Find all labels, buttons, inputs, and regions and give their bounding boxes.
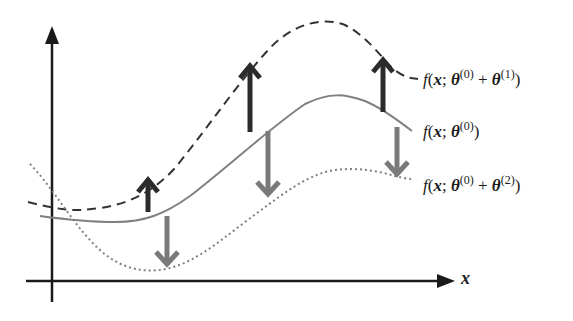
curve-theta0	[40, 95, 412, 222]
curve-theta0-plus-theta1	[28, 22, 418, 210]
label-theta: θ	[492, 176, 501, 195]
label-theta0-plus-theta2: f(x; θ(0) + θ(2))	[423, 176, 520, 196]
label-sep: ;	[442, 70, 447, 89]
label-arg: x	[433, 176, 442, 195]
label-sep: ;	[442, 176, 447, 195]
label-plus: +	[478, 70, 488, 89]
y-axis-arrowhead-icon	[45, 26, 59, 44]
x-axis-label: x	[461, 268, 470, 289]
label-theta: θ	[451, 122, 460, 141]
label-fn: f	[423, 122, 428, 141]
arrow-up-icon	[240, 66, 260, 132]
arrow-down-icon	[257, 131, 279, 194]
label-theta: θ	[451, 176, 460, 195]
arrow-up-icon	[138, 180, 158, 212]
label-sup: (0)	[460, 119, 474, 133]
label-arg: x	[433, 70, 442, 89]
label-plus: +	[478, 176, 488, 195]
label-sup: (0)	[460, 67, 474, 81]
label-theta0: f(x; θ(0))	[423, 122, 479, 142]
label-sep: ;	[442, 122, 447, 141]
label-sup: (2)	[501, 173, 515, 187]
y-axis	[45, 26, 59, 302]
label-arg: x	[433, 122, 442, 141]
arrow-up-icon	[373, 60, 393, 112]
arrow-down-icon	[386, 127, 408, 174]
label-theta0-plus-theta1: f(x; θ(0) + θ(1))	[423, 70, 520, 90]
arrow-down-icon	[156, 216, 178, 264]
label-fn: f	[423, 176, 428, 195]
x-axis	[26, 274, 455, 288]
function-perturbation-diagram	[0, 0, 573, 321]
label-theta: θ	[492, 70, 501, 89]
label-theta: θ	[451, 70, 460, 89]
label-sup: (0)	[460, 173, 474, 187]
label-sup: (1)	[501, 67, 515, 81]
curve-theta0-plus-theta2	[30, 164, 412, 270]
x-axis-arrowhead-icon	[437, 274, 455, 288]
label-fn: f	[423, 70, 428, 89]
